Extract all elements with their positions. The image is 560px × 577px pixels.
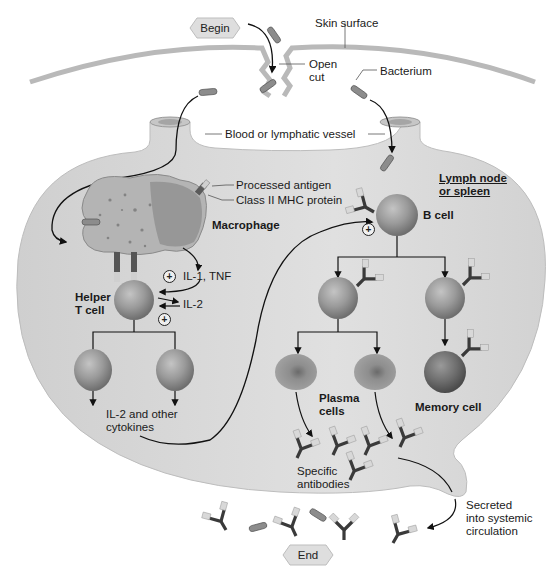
- label-plasma-line2: cells: [319, 405, 345, 417]
- label-open-cut-line1: Open: [309, 58, 337, 70]
- label-lymph-line1: Lymph node: [439, 172, 507, 184]
- label-secreted-line1: Secreted: [466, 499, 512, 511]
- label-bacterium: Bacterium: [380, 65, 432, 78]
- label-il2-cytokines: IL-2 and othercytokines: [106, 408, 178, 434]
- label-secreted-line3: circulation: [466, 525, 518, 537]
- label-specific-antibodies: Specificantibodies: [297, 465, 349, 491]
- skin-surface: [30, 47, 535, 96]
- label-secreted-line2: into systemic: [466, 512, 532, 524]
- label-plasma-cells: Plasmacells: [319, 392, 359, 418]
- b-cell-clone: [425, 277, 465, 319]
- antibody: [329, 513, 359, 540]
- bacterium: [350, 84, 368, 99]
- label-helper-t-cell: HelperT cell: [75, 291, 111, 317]
- label-lymph-line2: or spleen: [439, 185, 490, 197]
- immune-response-diagram: [0, 0, 560, 577]
- begin-marker: Begin: [189, 17, 241, 39]
- plus-in-circle-icon: +: [158, 313, 171, 326]
- label-mhc-protein: Class II MHC protein: [236, 194, 342, 207]
- bacterium: [199, 88, 217, 96]
- t-cell-clone: [74, 349, 112, 391]
- label-processed-antigen: Processed antigen: [236, 179, 331, 192]
- label-plasma-line1: Plasma: [319, 392, 359, 404]
- memory-cell: [424, 351, 466, 393]
- antibody: [380, 512, 419, 550]
- label-lymph-node: Lymph nodeor spleen: [439, 172, 507, 198]
- helper-t-cell: [114, 280, 154, 320]
- label-il2: IL-2: [183, 298, 203, 311]
- label-il2-line2: cytokines: [106, 421, 154, 433]
- label-open-cut: Opencut: [309, 58, 337, 84]
- b-cell: [376, 194, 418, 236]
- antibody: [200, 499, 239, 537]
- label-memory-cell: Memory cell: [415, 401, 481, 414]
- b-cell-clone: [318, 277, 358, 319]
- plus-in-circle-icon: +: [163, 270, 176, 283]
- antibody: [271, 505, 309, 542]
- label-skin-surface: Skin surface: [315, 17, 378, 30]
- label-b-cell: B cell: [423, 209, 454, 222]
- label-antibodies-line1: Specific: [297, 465, 337, 477]
- label-il1-tnf: IL-1, TNF: [183, 270, 231, 283]
- label-il2-line1: IL-2 and other: [106, 408, 178, 420]
- plasma-cell: [275, 354, 317, 390]
- label-vessel: Blood or lymphatic vessel: [225, 128, 355, 141]
- label-antibodies-line2: antibodies: [297, 478, 349, 490]
- label-helper-line2: T cell: [75, 304, 104, 316]
- plus-in-circle-icon: +: [362, 223, 375, 236]
- t-cell-clone: [156, 349, 194, 391]
- label-open-cut-line2: cut: [309, 71, 324, 83]
- label-secreted: Secretedinto systemiccirculation: [466, 499, 532, 538]
- label-helper-line1: Helper: [75, 291, 111, 303]
- plasma-cell: [354, 354, 396, 390]
- label-macrophage: Macrophage: [212, 219, 280, 232]
- end-marker: End: [282, 544, 334, 566]
